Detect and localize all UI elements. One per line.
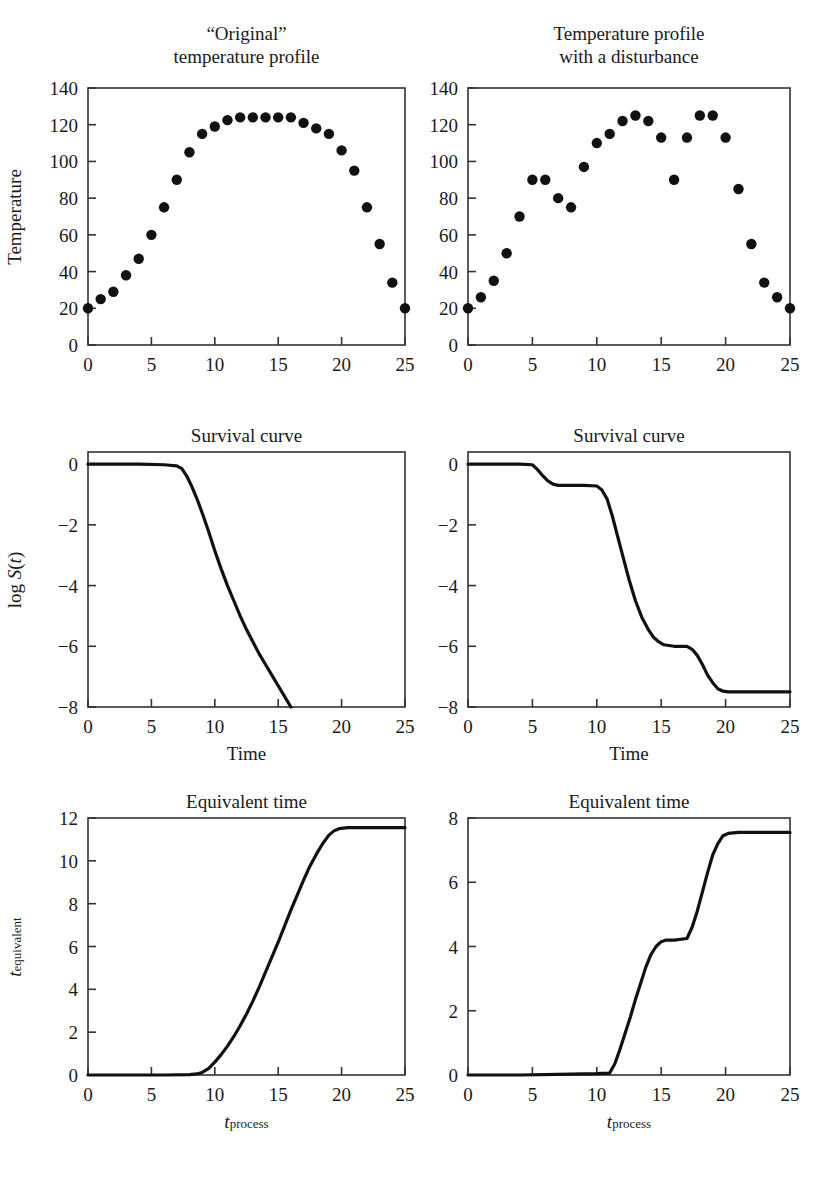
panel-title-line1: Temperature profile [328,22,827,45]
data-point [172,175,182,185]
data-point [349,165,359,175]
data-point [248,112,258,122]
plot-area-bot-left: 0246810120510152025 [28,808,435,1125]
data-point [514,211,524,221]
x-tick-label: 5 [528,1084,538,1105]
data-line [468,464,790,692]
data-point [785,303,795,313]
y-tick-label: −4 [438,576,459,597]
data-point [604,129,614,139]
y-tick-label: 2 [69,1022,79,1043]
y-tick-label: 0 [69,1065,79,1086]
data-point [374,239,384,249]
data-point [159,202,169,212]
y-tick-label: 40 [439,262,458,283]
y-tick-label: 0 [449,454,459,475]
data-point [311,123,321,133]
y-tick-label: 6 [69,937,79,958]
x-tick-label: 0 [463,354,473,375]
data-point [501,248,511,258]
x-tick-label: 10 [587,354,606,375]
data-point [298,118,308,128]
data-point [669,175,679,185]
data-point [592,138,602,148]
data-line [88,828,405,1075]
data-point [273,112,283,122]
y-tick-label: 4 [449,937,459,958]
y-tick-label: 60 [59,225,78,246]
data-point [682,132,692,142]
x-tick-label: 5 [528,354,538,375]
data-line [88,464,291,707]
x-tick-label: 15 [652,354,671,375]
data-point [336,145,346,155]
y-tick-label: −2 [58,515,78,536]
x-tick-label: 20 [332,716,351,737]
data-point [235,112,245,122]
y-tick-label: 120 [50,115,79,136]
y-tick-label: 80 [59,188,78,209]
x-tick-label: 10 [587,716,606,737]
x-tick-label: 0 [83,1084,93,1105]
x-tick-label: 5 [147,1084,157,1105]
x-axis-label: tprocess [468,1111,790,1133]
data-point [476,292,486,302]
y-tick-label: −2 [438,515,458,536]
y-tick-label: 0 [449,1065,459,1086]
data-point [197,129,207,139]
y-tick-label: −8 [58,697,78,718]
data-point [121,270,131,280]
data-point [643,116,653,126]
y-tick-label: 2 [449,1001,459,1022]
x-axis-label: Time [88,743,405,765]
x-tick-label: 25 [781,716,800,737]
data-point [108,287,118,297]
data-point [617,116,627,126]
x-tick-label: 20 [716,716,735,737]
y-tick-label: 60 [439,225,458,246]
x-tick-label: 10 [205,354,224,375]
y-tick-label: 12 [59,808,78,829]
y-tick-label: 0 [449,335,459,356]
data-point [746,239,756,249]
y-tick-label: 8 [69,894,79,915]
data-point [362,202,372,212]
y-tick-label: 100 [50,151,79,172]
x-axis-label: tprocess [88,1111,405,1133]
y-tick-label: 8 [449,808,459,829]
data-point [260,112,270,122]
data-point [95,294,105,304]
x-tick-label: 25 [781,1084,800,1105]
y-axis-label: tequivalent [4,917,26,976]
y-tick-label: 20 [439,298,458,319]
data-point [324,129,334,139]
data-point [759,277,769,287]
y-tick-label: 0 [69,454,79,475]
y-tick-label: 20 [59,298,78,319]
x-tick-label: 10 [587,1084,606,1105]
y-tick-label: 40 [59,262,78,283]
data-line [468,832,790,1075]
data-point [540,175,550,185]
data-point [146,230,156,240]
data-point [527,175,537,185]
data-point [222,115,232,125]
x-tick-label: 15 [269,1084,288,1105]
data-point [553,193,563,203]
x-tick-label: 20 [332,354,351,375]
y-tick-label: 140 [430,78,459,99]
plot-area-top-left: 0204060801001201400510152025 [28,78,435,395]
data-point [708,110,718,120]
x-tick-label: 10 [205,1084,224,1105]
x-tick-label: 5 [147,716,157,737]
y-tick-label: 80 [439,188,458,209]
data-point [387,277,397,287]
data-point [656,132,666,142]
x-tick-label: 20 [716,354,735,375]
plot-area-mid-left: −8−6−4−200510152025 [28,442,435,757]
data-point [772,292,782,302]
data-point [630,110,640,120]
data-point [489,276,499,286]
y-tick-label: 120 [430,115,459,136]
x-tick-label: 15 [652,716,671,737]
